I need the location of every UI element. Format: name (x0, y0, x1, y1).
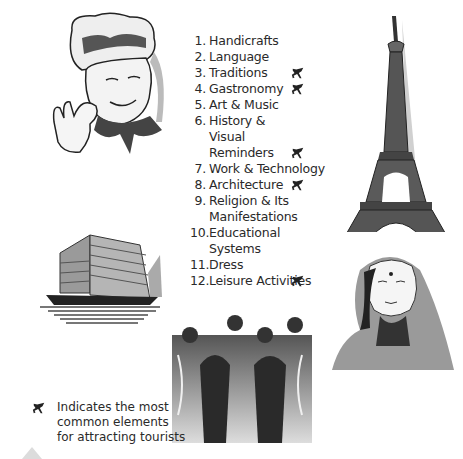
list-item: 6.History & (190, 113, 340, 129)
jazz-band-illustration (170, 305, 315, 445)
list-item-number: 1. (190, 33, 206, 49)
list-item-continuation: Visual (190, 129, 340, 145)
list-item-number: 5. (190, 97, 206, 113)
airplane-icon (291, 82, 305, 96)
chef-illustration (50, 12, 170, 162)
list-item: 7.Work & Technology (190, 161, 340, 177)
list-item: 8.Architecture (190, 177, 340, 193)
list-item-label: Handicrafts (209, 33, 278, 48)
list-item: 1.Handicrafts (190, 33, 340, 49)
list-item-label: Work & Technology (209, 161, 325, 176)
list-item-number: 7. (190, 161, 206, 177)
list-item-number: 6. (190, 113, 206, 129)
list-item-label: History & (209, 113, 265, 128)
list-item: 5.Art & Music (190, 97, 340, 113)
list-item-number: 12. (190, 273, 206, 289)
list-item-label: Traditions (209, 65, 267, 80)
list-item-number: 4. (190, 81, 206, 97)
list-item-number: 9. (190, 193, 206, 209)
legend-line: Indicates the most (57, 400, 185, 415)
cultural-elements-list: 1.Handicrafts2.Language3.Traditions4.Gas… (190, 33, 340, 289)
airplane-icon (291, 146, 305, 160)
list-item-continuation: Manifestations (190, 209, 340, 225)
airplane-icon (291, 66, 305, 80)
list-item-continuation: Systems (190, 241, 340, 257)
list-item-label: Dress (209, 257, 243, 272)
list-item: 2.Language (190, 49, 340, 65)
list-item-number: 8. (190, 177, 206, 193)
corner-decoration (22, 447, 42, 459)
list-item: 11.Dress (190, 257, 340, 273)
list-item-number: 10. (190, 225, 206, 241)
list-item-continuation: Reminders (190, 145, 340, 161)
list-item-label: Language (209, 49, 269, 64)
list-item-label: Art & Music (209, 97, 279, 112)
legend: Indicates the most common elements for a… (32, 400, 185, 445)
list-item-label: Educational (209, 225, 280, 240)
woman-in-sari-illustration (330, 250, 455, 375)
airplane-icon (291, 274, 305, 288)
list-item: 3.Traditions (190, 65, 340, 81)
eiffel-tower-illustration (340, 12, 460, 232)
list-item: 12.Leisure Activities (190, 273, 340, 289)
list-item: 9.Religion & Its (190, 193, 340, 209)
list-item-label: Religion & Its (209, 193, 289, 208)
airplane-icon (291, 178, 305, 192)
list-item-number: 3. (190, 65, 206, 81)
list-item: 10.Educational (190, 225, 340, 241)
airplane-icon (32, 401, 46, 415)
list-item: 4.Gastronomy (190, 81, 340, 97)
list-item-number: 11. (190, 257, 206, 273)
legend-line: common elements (57, 415, 185, 430)
junk-ship-illustration (20, 225, 170, 330)
legend-line: for attracting tourists (57, 430, 185, 445)
list-item-number: 2. (190, 49, 206, 65)
list-item-label: Gastronomy (209, 81, 283, 96)
list-item-label: Architecture (209, 177, 283, 192)
